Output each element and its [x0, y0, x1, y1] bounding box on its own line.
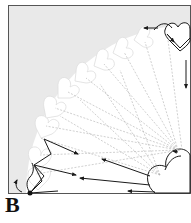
fan-diagram [0, 0, 191, 223]
panel-label: B [5, 194, 20, 216]
start-dot [28, 191, 33, 196]
